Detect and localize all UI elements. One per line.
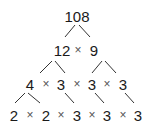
branch (15, 93, 25, 103)
branch (105, 61, 116, 73)
node-12: 12 (54, 43, 71, 58)
branch (65, 93, 74, 103)
times-sign: × (119, 109, 126, 121)
leaf-3: 3 (73, 108, 81, 123)
branch (55, 61, 65, 73)
node-3: 3 (57, 77, 65, 92)
node-4: 4 (26, 77, 34, 92)
branch (65, 25, 75, 37)
branch (92, 61, 102, 73)
times-sign: × (73, 78, 80, 90)
leaf-2: 2 (10, 108, 18, 123)
times-sign: × (57, 109, 64, 121)
branch (125, 93, 134, 103)
leaf-2: 2 (42, 108, 50, 123)
times-sign: × (42, 78, 49, 90)
leaf-3: 3 (134, 108, 142, 123)
times-sign: × (103, 78, 110, 90)
branch (28, 93, 40, 103)
root-node: 108 (64, 9, 89, 24)
node-3: 3 (119, 77, 127, 92)
times-sign: × (74, 44, 81, 56)
node-3: 3 (88, 77, 96, 92)
branch (79, 25, 90, 37)
branch (95, 93, 104, 103)
leaf-3: 3 (103, 108, 111, 123)
times-sign: × (88, 109, 95, 121)
node-9: 9 (90, 43, 98, 58)
times-sign: × (26, 109, 33, 121)
branch (40, 61, 52, 73)
